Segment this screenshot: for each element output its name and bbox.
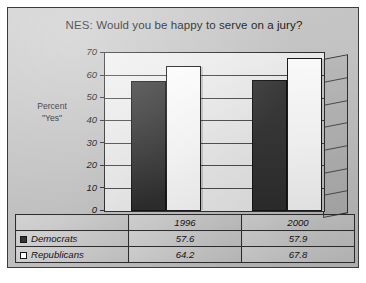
legend-swatch-republicans-icon	[20, 252, 27, 259]
legend-item-democrats: Democrats	[16, 231, 129, 247]
legend-label-democrats: Democrats	[31, 233, 77, 244]
y-tick-label-30: 30	[66, 138, 97, 148]
y-axis-title-line-1: Percent	[18, 101, 86, 113]
y-tick-label-40: 40	[66, 115, 97, 125]
table-corner-cell	[16, 215, 129, 231]
depth-gridline-60	[324, 77, 347, 82]
y-tick-label-50: 50	[66, 92, 97, 102]
table-header-1996: 1996	[129, 215, 242, 231]
depth-gridline-30	[324, 145, 347, 150]
plot-area	[104, 52, 325, 212]
bar-democrats-2000	[252, 80, 287, 211]
table-header-row: 1996 2000	[16, 215, 355, 231]
cell-republicans-2000: 67.8	[242, 247, 355, 263]
table-row: Republicans 64.2 67.8	[16, 247, 355, 263]
chart-title: NES: Would you be happy to serve on a ju…	[8, 19, 359, 31]
y-tick-label-20: 20	[66, 160, 97, 170]
chart-figure: NES: Would you be happy to serve on a ju…	[7, 7, 359, 268]
y-tick-label-60: 60	[66, 70, 97, 80]
scanned-page: NES: Would you be happy to serve on a ju…	[0, 0, 366, 283]
data-table: 1996 2000 Democrats 57.6 57.9 Republican…	[15, 214, 355, 263]
depth-gridline-20	[324, 168, 347, 173]
plot-depth-panel	[323, 54, 348, 218]
bar-democrats-1996	[131, 81, 166, 211]
y-tick-label-70: 70	[66, 47, 97, 57]
y-tick-label-10: 10	[66, 183, 97, 193]
table-header-2000: 2000	[242, 215, 355, 231]
cell-democrats-1996: 57.6	[129, 231, 242, 247]
depth-gridline-10	[324, 190, 347, 195]
cell-republicans-1996: 64.2	[129, 247, 242, 263]
cell-democrats-2000: 57.9	[242, 231, 355, 247]
bar-republicans-2000	[287, 58, 322, 211]
legend-label-republicans: Republicans	[31, 249, 84, 260]
depth-gridline-50	[324, 100, 347, 105]
legend-swatch-democrats-icon	[20, 236, 27, 243]
bar-republicans-1996	[166, 66, 201, 211]
depth-gridline-40	[324, 122, 347, 127]
table-row: Democrats 57.6 57.9	[16, 231, 355, 247]
legend-item-republicans: Republicans	[16, 247, 129, 263]
